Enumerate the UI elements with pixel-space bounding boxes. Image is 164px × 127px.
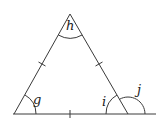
tick-mark-left-side bbox=[39, 62, 46, 66]
tick-mark-right-side bbox=[96, 62, 103, 66]
angle-g-label: g bbox=[33, 92, 41, 107]
triangle-diagram: g h i j bbox=[0, 0, 164, 127]
angle-j-label: j bbox=[134, 82, 141, 97]
angle-i-label: i bbox=[102, 94, 106, 109]
angle-i-arc bbox=[106, 95, 117, 114]
angle-h-arc bbox=[58, 35, 82, 38]
angle-h-label: h bbox=[66, 18, 74, 33]
